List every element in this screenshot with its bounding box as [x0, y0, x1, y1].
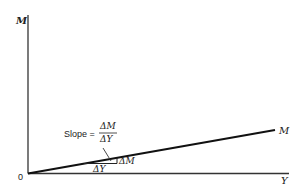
y-axis-label: M [15, 15, 28, 26]
run-label: ΔY [92, 164, 106, 174]
origin-label: 0 [18, 172, 23, 182]
rise-label: ΔM [118, 156, 135, 166]
slope-diagram: M Y 0 M ΔM ΔY Slope = ΔM ΔY [0, 0, 303, 195]
m-line-label: M [278, 125, 290, 136]
slope-denominator: ΔY [99, 134, 113, 144]
slope-numerator: ΔM [99, 121, 116, 131]
x-axis-label: Y [281, 175, 289, 186]
slope-prefix: Slope = [64, 129, 95, 139]
